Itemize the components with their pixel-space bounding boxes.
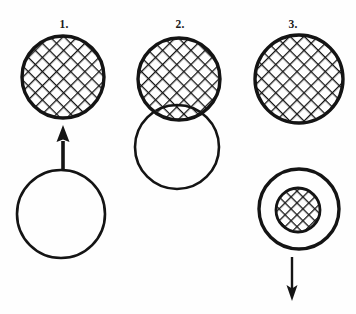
panel-3-label: 3. (288, 18, 297, 30)
panel-1-up-arrow (57, 125, 70, 169)
figure-canvas: 1. 2. 3. (0, 0, 356, 314)
panel-1-plain-circle-bottom (17, 170, 105, 258)
panel-3-down-arrow (287, 257, 298, 301)
panel-1-hatched-circle-top (22, 36, 104, 118)
panel-2-hatched-circle-top (138, 38, 220, 120)
panel-3-hatched-circle-top (255, 35, 343, 123)
panel-1-arrow-head (57, 125, 70, 142)
panel-2-label: 2. (175, 18, 184, 30)
panel-1: 1. (17, 18, 105, 258)
panel-2: 2. (135, 18, 220, 189)
figure-root: 1. 2. 3. (0, 0, 356, 314)
panel-3: 3. (255, 18, 343, 301)
panel-3-inner-hatched-circle (276, 188, 320, 232)
panel-1-label: 1. (59, 18, 68, 30)
